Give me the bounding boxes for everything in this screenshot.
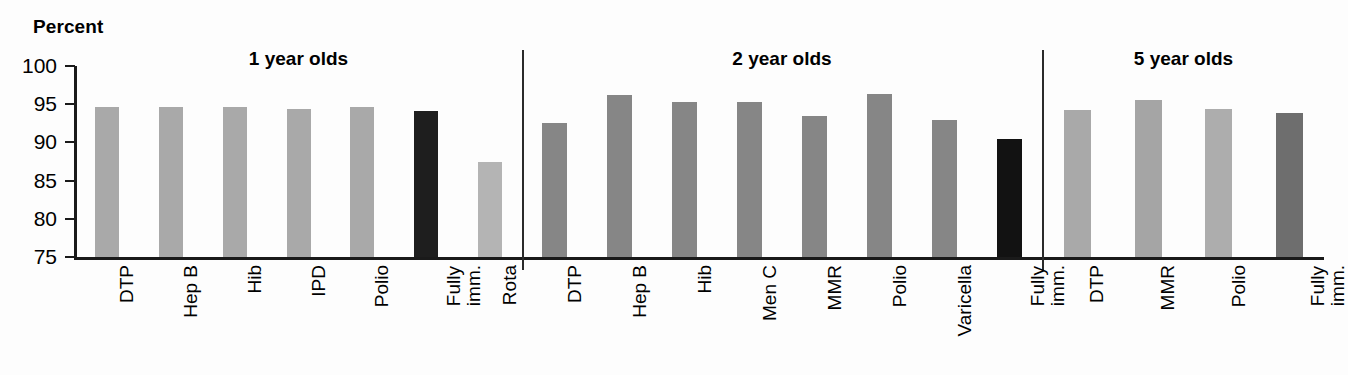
category-label: Polio [372,265,392,307]
y-tick-label-85: 85 [34,170,57,191]
y-tick-90 [65,141,75,143]
bar [350,107,374,258]
category-label: IPD [309,265,329,297]
group-separator-1 [522,50,524,270]
bar [1276,113,1303,257]
bar [414,111,438,257]
y-tick-label-90: 90 [34,131,57,152]
bar [159,107,183,258]
group-title-3: 5 year olds [1134,48,1233,70]
y-tick-85 [65,180,75,182]
category-label: Hep B [630,265,650,318]
bar [1135,100,1162,257]
y-tick-label-80: 80 [34,208,57,229]
category-label: Fullyimm. [444,265,484,306]
bar [737,102,762,257]
bar [672,102,697,257]
y-tick-100 [65,65,75,67]
category-label: Hep B [181,265,201,318]
bar [95,107,119,258]
category-label: Varicella [955,265,975,336]
bar [1064,110,1091,257]
category-label: DTP [565,265,585,303]
bar [997,139,1022,257]
category-label: DTP [1087,265,1107,303]
category-label: MMR [1158,265,1178,310]
y-tick-label-95: 95 [34,93,57,114]
y-axis-title: Percent [33,16,103,38]
bar [1205,109,1232,257]
group-title-2: 2 year olds [732,48,831,70]
bar [932,120,957,257]
category-label: DTP [117,265,137,303]
category-label: Polio [890,265,910,307]
bar [607,95,632,257]
y-tick-label-100: 100 [22,55,57,76]
bar [223,107,247,257]
category-label: Polio [1229,265,1249,307]
x-axis-line [74,257,1324,260]
bar [478,162,502,258]
y-tick-80 [65,218,75,220]
category-label: Rota [500,265,520,305]
category-label: Hib [695,265,715,294]
bar [287,109,311,257]
y-axis-line [74,66,77,257]
y-tick-95 [65,103,75,105]
bar [867,94,892,257]
bar [542,123,567,257]
bar [802,116,827,257]
group-separator-2 [1042,50,1044,270]
y-tick-75 [65,256,75,258]
y-tick-label-75: 75 [34,246,57,267]
category-label: Fullyimm. [1028,265,1068,306]
category-label: Men C [760,265,780,321]
group-title-1: 1 year olds [249,48,348,70]
category-label: MMR [825,265,845,310]
plot-area: 7580859095100 1 year olds2 year olds5 ye… [75,66,1325,257]
category-label: Hib [245,265,265,294]
category-label: Fullyimm. [1308,265,1348,306]
